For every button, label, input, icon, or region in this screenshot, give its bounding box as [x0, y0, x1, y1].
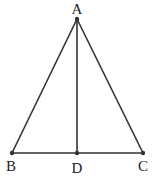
point-b [10, 151, 14, 155]
point-a [75, 17, 79, 21]
point-c [141, 151, 145, 155]
segment-ab [12, 19, 77, 153]
label-d: D [72, 160, 83, 176]
label-a: A [72, 1, 83, 17]
segments [12, 19, 143, 153]
label-c: C [138, 158, 148, 174]
segment-ac [77, 19, 143, 153]
point-d [75, 151, 79, 155]
label-b: B [6, 158, 16, 174]
triangle-diagram: A B D C [0, 0, 154, 181]
